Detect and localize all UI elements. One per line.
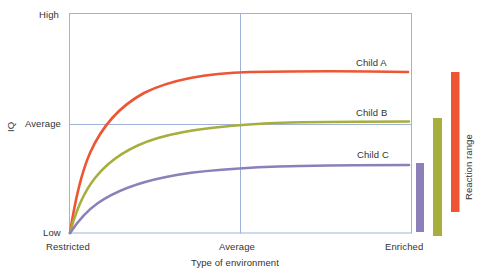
curve-child-b — [70, 122, 409, 234]
y-tick-high: High — [39, 9, 59, 20]
reaction-range-bar-child-a — [451, 72, 460, 212]
series-label-child-b: Child B — [356, 107, 387, 118]
series-label-child-c: Child C — [357, 149, 389, 160]
chart-canvas — [0, 0, 483, 274]
reaction-range-label: Reaction range — [463, 134, 474, 200]
curve-child-c — [70, 165, 409, 233]
y-axis-title: IQ — [5, 122, 16, 132]
x-tick-enriched: Enriched — [385, 241, 423, 252]
reaction-range-chart: High Average Low IQ Restricted Average E… — [0, 0, 483, 274]
series-label-child-a: Child A — [356, 57, 387, 68]
x-axis-title: Type of environment — [191, 257, 279, 268]
y-tick-average: Average — [25, 118, 61, 129]
x-tick-restricted: Restricted — [46, 241, 90, 252]
reaction-range-bar-child-b — [433, 118, 442, 236]
x-tick-average: Average — [219, 241, 255, 252]
reaction-range-bar-child-c — [416, 163, 424, 232]
y-tick-low: Low — [43, 227, 61, 238]
